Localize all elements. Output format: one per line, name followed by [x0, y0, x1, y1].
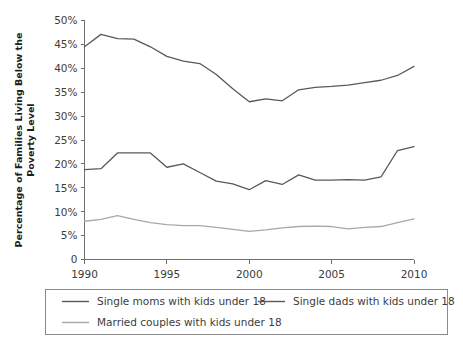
chart-canvas: 05%10%15%20%25%30%35%40%45%50% 199019952…	[0, 0, 463, 349]
y-tick-label: 15%	[54, 182, 77, 194]
y-axis: 05%10%15%20%25%30%35%40%45%50%	[54, 14, 84, 265]
y-tick-label: 5%	[61, 229, 78, 241]
x-tick-label: 2000	[236, 268, 263, 280]
y-tick-label: 30%	[54, 110, 77, 122]
x-tick-label: 1995	[154, 268, 181, 280]
legend-label-1: Single dads with kids under 18	[293, 295, 455, 307]
y-tick-label: 50%	[54, 14, 77, 26]
legend-label-2: Married couples with kids under 18	[97, 316, 282, 328]
series-line-2	[85, 216, 415, 232]
y-tick-label: 40%	[54, 62, 77, 74]
y-axis-title: Percentage of Families Living Below theP…	[13, 33, 36, 248]
y-tick-label: 0	[71, 253, 78, 265]
legend-label-0: Single moms with kids under 18	[97, 295, 266, 307]
series-line-0	[85, 34, 415, 101]
x-tick-label: 2005	[318, 268, 345, 280]
x-tick-label: 2010	[401, 268, 428, 280]
data-series-group	[85, 34, 415, 231]
y-axis-title-line-0: Percentage of Families Living Below the	[13, 33, 24, 248]
y-tick-label: 10%	[54, 206, 77, 218]
chart-legend: Single moms with kids under 18Single dad…	[46, 290, 455, 335]
y-tick-label: 25%	[54, 134, 77, 146]
series-line-1	[85, 147, 415, 190]
x-axis: 19901995200020052010	[71, 260, 427, 280]
y-tick-label: 35%	[54, 86, 77, 98]
x-tick-label: 1990	[71, 268, 98, 280]
poverty-line-chart: 05%10%15%20%25%30%35%40%45%50% 199019952…	[0, 0, 463, 349]
plot-area: 05%10%15%20%25%30%35%40%45%50% 199019952…	[54, 14, 427, 279]
y-axis-title-line-1: Poverty Level	[25, 103, 36, 176]
y-tick-label: 20%	[54, 158, 77, 170]
y-tick-label: 45%	[54, 38, 77, 50]
